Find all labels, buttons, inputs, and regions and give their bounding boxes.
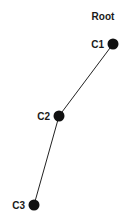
node-c1-label: C1 xyxy=(91,39,104,50)
node-c3-label: C3 xyxy=(12,200,25,211)
node-c2[interactable] xyxy=(54,111,65,122)
node-c1[interactable] xyxy=(108,39,119,50)
tree-diagram: Root C1 C2 C3 xyxy=(0,0,131,223)
root-label: Root xyxy=(92,11,115,22)
node-c2-label: C2 xyxy=(37,111,50,122)
edge-c1-c2 xyxy=(59,44,113,116)
node-c3[interactable] xyxy=(29,200,40,211)
edge-c2-c3 xyxy=(34,116,59,205)
